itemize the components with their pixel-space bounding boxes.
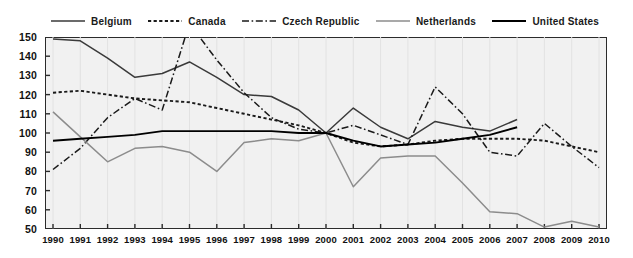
x-tick-label: 2008: [534, 234, 556, 245]
legend-swatch-dotted-icon: [148, 16, 182, 26]
legend-item-canada[interactable]: Canada: [148, 16, 225, 27]
chart-legend: BelgiumCanadaCzech RepublicNetherlandsUn…: [45, 10, 605, 32]
x-tick-label: 1992: [97, 234, 119, 245]
y-tick-label: 140: [19, 50, 37, 62]
x-tick-label: 1999: [288, 234, 310, 245]
x-tick-label: 1997: [233, 234, 255, 245]
x-tick-label: 2005: [452, 234, 474, 245]
x-tick-label: 1998: [261, 234, 283, 245]
y-tick-label: 80: [25, 165, 37, 177]
x-axis-labels: 1990199119921993199419951996199719981999…: [45, 232, 607, 252]
y-tick-label: 100: [19, 127, 37, 139]
y-tick-label: 50: [25, 223, 37, 235]
legend-label: Canada: [188, 16, 225, 27]
plot-area: [45, 37, 607, 229]
y-tick-label: 110: [19, 108, 37, 120]
y-tick-label: 70: [25, 185, 37, 197]
x-tick-label: 2003: [397, 234, 419, 245]
legend-label: United States: [532, 16, 599, 27]
y-tick-label: 120: [19, 89, 37, 101]
y-tick-label: 130: [19, 69, 37, 81]
x-tick-label: 2010: [588, 234, 610, 245]
x-tick-label: 2002: [370, 234, 392, 245]
x-tick-label: 2006: [479, 234, 501, 245]
x-tick-label: 1994: [151, 234, 173, 245]
legend-item-united-states[interactable]: United States: [492, 16, 599, 27]
chart-screenshot: BelgiumCanadaCzech RepublicNetherlandsUn…: [0, 0, 633, 258]
x-tick-label: 2009: [561, 234, 583, 245]
x-tick-label: 2007: [506, 234, 528, 245]
legend-swatch-solid-icon: [51, 16, 85, 26]
legend-item-netherlands[interactable]: Netherlands: [376, 16, 476, 27]
x-tick-label: 1991: [70, 234, 92, 245]
y-tick-label: 60: [25, 204, 37, 216]
legend-label: Netherlands: [416, 16, 476, 27]
x-tick-label: 1993: [124, 234, 146, 245]
legend-swatch-dashdot-icon: [242, 16, 276, 26]
y-axis-labels: 1501401301201101009080706050: [0, 30, 42, 236]
y-tick-label: 90: [25, 146, 37, 158]
series-line-united-states: [53, 127, 517, 146]
x-tick-label: 1995: [179, 234, 201, 245]
x-tick-label: 2000: [315, 234, 337, 245]
legend-item-belgium[interactable]: Belgium: [51, 16, 132, 27]
x-tick-label: 1996: [206, 234, 228, 245]
legend-label: Belgium: [91, 16, 132, 27]
legend-swatch-solid-icon: [376, 16, 410, 26]
plot-lines: [45, 37, 607, 229]
legend-swatch-solid-icon: [492, 16, 526, 26]
x-tick-label: 2001: [343, 234, 365, 245]
x-tick-label: 2004: [424, 234, 446, 245]
legend-item-czech-republic[interactable]: Czech Republic: [242, 16, 359, 27]
legend-label: Czech Republic: [282, 16, 359, 27]
x-tick-label: 1990: [42, 234, 64, 245]
y-tick-label: 150: [19, 31, 37, 43]
